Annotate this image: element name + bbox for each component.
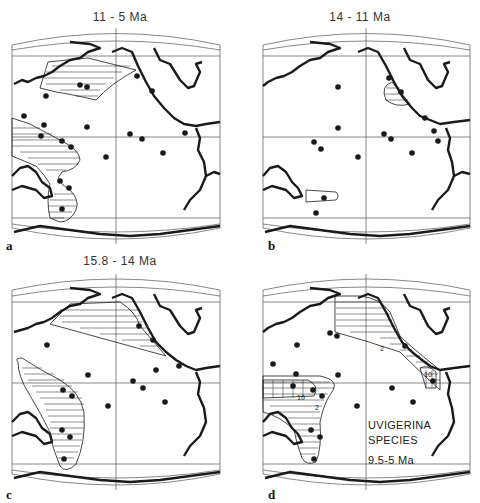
panel-letter-d: d — [268, 487, 275, 503]
contour-label-2-west: 2 — [315, 404, 319, 411]
legend-block: UVIGERINA SPECIES 9.5-5 Ma — [368, 418, 431, 468]
legend-age: 9.5-5 Ma — [368, 453, 431, 468]
contour-label-10-west: 10 — [297, 394, 305, 401]
panel-c: 15.8 - 14 Ma — [0, 252, 240, 503]
panel-a: 11 - 5 Ma — [0, 0, 240, 251]
map-c — [0, 252, 240, 503]
panel-letter-c: c — [6, 487, 12, 503]
legend-species: SPECIES — [368, 433, 431, 448]
legend-genus: UVIGERINA — [368, 418, 431, 433]
panel-b: 14 - 11 Ma — [240, 0, 480, 251]
contour-label-10-east: 10 — [424, 371, 432, 378]
panel-d: 2 10 10 2 UVIGERINA SPECIES 9.5-5 Ma d — [240, 252, 480, 503]
contour-label-2-east: 2 — [380, 345, 384, 352]
map-a — [0, 0, 240, 251]
map-d: 2 10 10 2 — [240, 252, 480, 503]
map-b — [240, 0, 480, 251]
